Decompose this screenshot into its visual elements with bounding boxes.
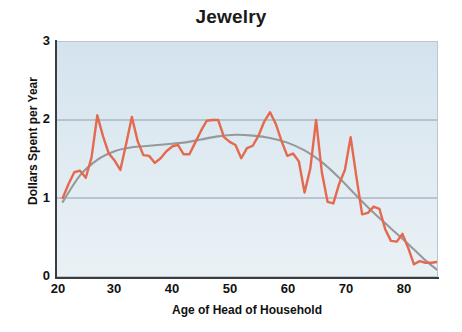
fitted-trend-line: [63, 135, 437, 270]
y-axis-line: [55, 40, 57, 279]
x-axis-title: Age of Head of Household: [56, 303, 438, 317]
chart-title: Jewelry: [0, 6, 462, 28]
y-tick-label-1: 1: [28, 190, 50, 205]
chart-figure: Jewelry Dollars Spent per Year 3 2 1 0 2…: [0, 0, 462, 332]
x-tick-label-30: 30: [94, 281, 134, 296]
x-tick-label-50: 50: [210, 281, 250, 296]
x-tick-label-60: 60: [268, 281, 308, 296]
plot-area: [56, 41, 438, 277]
x-tick-label-40: 40: [152, 281, 192, 296]
x-tick-label-80: 80: [384, 281, 424, 296]
plot-svg: [57, 42, 437, 276]
y-tick-label-2: 2: [28, 111, 50, 126]
y-tick-label-3: 3: [28, 33, 50, 48]
x-tick-label-70: 70: [326, 281, 366, 296]
x-tick-label-20: 20: [38, 281, 78, 296]
x-axis-line: [55, 277, 439, 279]
